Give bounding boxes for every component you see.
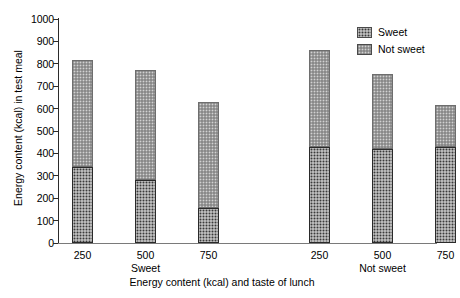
chart-legend: Sweet Not sweet: [357, 25, 425, 59]
x-axis-title: Energy content (kcal) and taste of lunch: [0, 276, 444, 288]
bar-segment-not-sweet: [135, 70, 156, 180]
bar-segment-sweet: [372, 149, 393, 243]
y-axis-tick: 600: [0, 103, 58, 115]
legend-item-label: Sweet: [378, 27, 407, 38]
bar-segment-not-sweet: [435, 105, 456, 146]
x-axis-tick-label: 250: [297, 249, 343, 261]
x-axis-group-label: Not sweet: [323, 262, 443, 274]
x-axis-group-label: Sweet: [86, 262, 206, 274]
bar-segment-sweet: [435, 147, 456, 243]
y-axis-tick-mark: [53, 41, 58, 42]
x-axis-tick-label: 750: [423, 249, 460, 261]
y-axis-tick-mark: [53, 153, 58, 154]
bar-sweet-750: [198, 19, 219, 243]
y-axis-tick: 500: [0, 125, 58, 137]
bar-segment-not-sweet: [372, 74, 393, 149]
bar-segment-sweet: [198, 208, 219, 243]
x-axis-tick-label: 500: [360, 249, 406, 261]
bar-segment-sweet: [135, 180, 156, 243]
bar-segment-not-sweet: [72, 60, 93, 167]
light-hatch-swatch-icon: [357, 44, 372, 55]
legend-item-label: Not sweet: [378, 44, 425, 55]
y-axis-tick-mark: [53, 198, 58, 199]
y-axis-tick-mark: [53, 63, 58, 64]
y-axis-tick: 700: [0, 80, 58, 92]
x-axis-tick-label: 250: [60, 249, 106, 261]
legend-item-sweet: Sweet: [357, 25, 425, 40]
y-axis-tick: 400: [0, 147, 58, 159]
bar-not-sweet-250: [309, 19, 330, 243]
y-axis-tick-mark: [53, 108, 58, 109]
bar-sweet-500: [135, 19, 156, 243]
y-axis-tick: 300: [0, 170, 58, 182]
bar-segment-sweet: [72, 167, 93, 243]
y-axis-tick-mark: [53, 131, 58, 132]
bar-segment-not-sweet: [309, 50, 330, 146]
y-axis-tick: 0: [0, 237, 58, 249]
dark-checker-swatch-icon: [357, 27, 372, 38]
y-axis-tick-mark: [53, 19, 58, 20]
y-axis-tick: 1000: [0, 13, 58, 25]
y-axis-ticks: 10009008007006005004003002001000: [0, 0, 58, 298]
y-axis-tick-mark: [53, 86, 58, 87]
y-axis-tick: 100: [0, 215, 58, 227]
bar-segment-sweet: [309, 147, 330, 243]
y-axis-tick-mark: [53, 220, 58, 221]
x-axis-line: [58, 243, 437, 244]
bar-not-sweet-750: [435, 19, 456, 243]
y-axis-tick: 900: [0, 35, 58, 47]
legend-item-not-sweet: Not sweet: [357, 42, 425, 57]
y-axis-tick-mark: [53, 175, 58, 176]
bar-sweet-250: [72, 19, 93, 243]
y-axis-tick: 200: [0, 192, 58, 204]
x-axis-tick-label: 500: [123, 249, 169, 261]
y-axis-tick-mark: [53, 243, 58, 244]
x-axis-tick-label: 750: [186, 249, 232, 261]
bar-segment-not-sweet: [198, 102, 219, 208]
y-axis-tick: 800: [0, 58, 58, 70]
